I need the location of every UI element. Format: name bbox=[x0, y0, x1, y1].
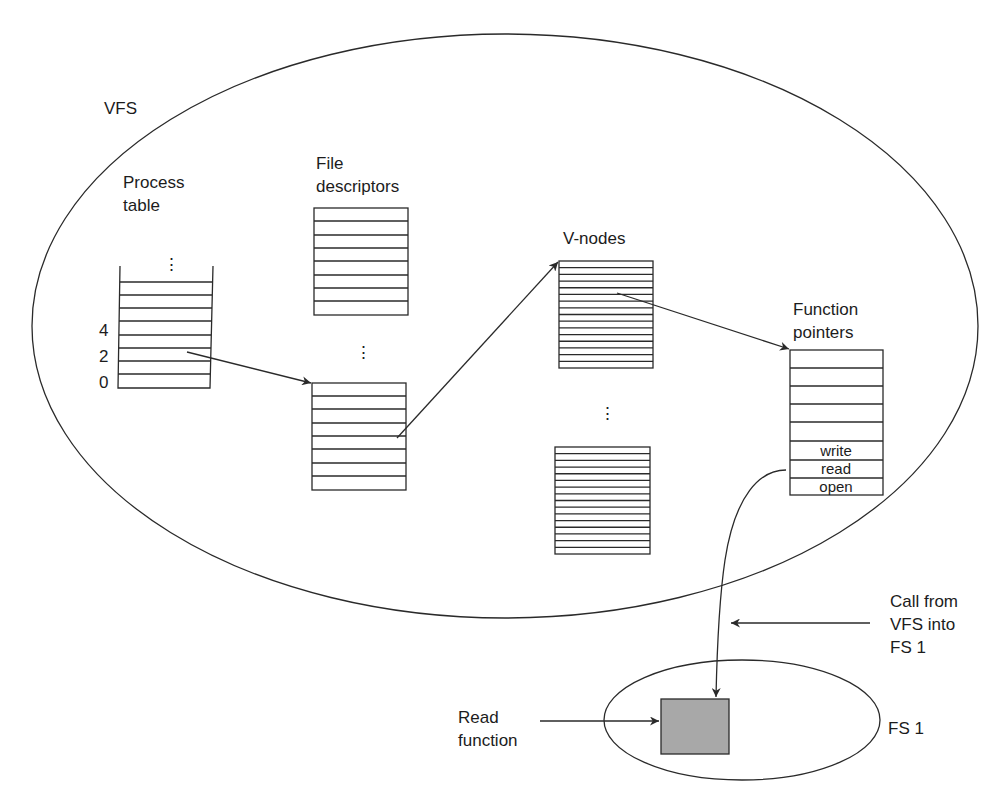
v-nodes: V-nodes ⋮ bbox=[555, 229, 653, 554]
fp-cell-read: read bbox=[821, 460, 851, 477]
process-table-title-2: table bbox=[123, 196, 160, 215]
function-pointers-title-2: pointers bbox=[793, 323, 853, 342]
function-pointers: Function pointers write read open bbox=[790, 300, 883, 495]
read-function-block bbox=[661, 699, 729, 754]
v-nodes-dots: ⋮ bbox=[599, 404, 616, 423]
call-annotation-line1: Call from bbox=[890, 592, 958, 611]
process-row-label-4: 4 bbox=[99, 321, 108, 340]
fs1-label: FS 1 bbox=[888, 719, 924, 738]
read-function-line2: function bbox=[458, 731, 518, 750]
call-annotation-line3: FS 1 bbox=[890, 638, 926, 657]
v-nodes-title: V-nodes bbox=[563, 229, 625, 248]
process-table-title: Process bbox=[123, 173, 184, 192]
process-table: Process table ⋮ 4 2 0 bbox=[99, 173, 213, 392]
call-annotation-line2: VFS into bbox=[890, 615, 955, 634]
file-descriptors-title-2: descriptors bbox=[316, 177, 399, 196]
arrow-fd-to-vnode bbox=[397, 262, 558, 438]
fp-cell-write: write bbox=[819, 442, 852, 459]
process-row-label-0: 0 bbox=[99, 373, 108, 392]
arrow-process-to-fd bbox=[187, 352, 311, 383]
fs1-boundary bbox=[604, 660, 880, 780]
file-descriptors: File descriptors ⋮ bbox=[312, 154, 408, 490]
file-descriptors-title: File bbox=[316, 154, 343, 173]
vfs-diagram: VFS Process table ⋮ 4 2 0 File descripto… bbox=[0, 0, 1004, 808]
function-pointers-title: Function bbox=[793, 300, 858, 319]
vfs-label: VFS bbox=[104, 99, 137, 118]
file-descriptors-dots: ⋮ bbox=[355, 343, 372, 362]
fp-cell-open: open bbox=[819, 478, 852, 495]
read-function-line1: Read bbox=[458, 708, 499, 727]
process-table-dots: ⋮ bbox=[163, 255, 180, 274]
process-row-label-2: 2 bbox=[99, 347, 108, 366]
